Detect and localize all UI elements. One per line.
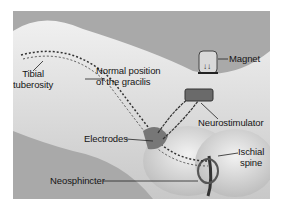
anatomical-illustration: ↓↓ Tibial tuberosity Normal position of … (13, 11, 270, 199)
label-electrodes: Electrodes (84, 134, 128, 145)
label-ischial-spine: Ischial spine (238, 147, 264, 168)
label-gracilis: Normal position of the gracilis (96, 66, 161, 87)
label-line: Normal position (96, 66, 161, 77)
illustration-artwork: ↓↓ (13, 11, 270, 199)
label-line: of the gracilis (96, 77, 161, 88)
magnet-arrows-icon: ↓↓ (203, 62, 211, 71)
label-line: tuberosity (13, 80, 53, 91)
label-magnet: Magnet (229, 54, 260, 65)
label-tibial-tuberosity: Tibial tuberosity (13, 69, 53, 90)
label-line: Ischial (238, 147, 264, 158)
label-neosphincter: Neosphincter (50, 176, 105, 187)
label-neurostimulator: Neurostimulator (198, 118, 264, 129)
neurostimulator-device (185, 89, 213, 101)
label-line: Tibial (13, 69, 53, 80)
label-line: spine (238, 158, 264, 169)
magnet-base (198, 72, 218, 74)
